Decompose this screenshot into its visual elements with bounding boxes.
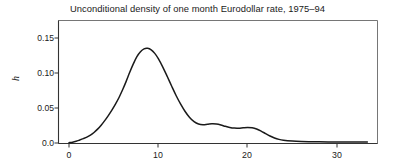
plot-area [0, 0, 395, 166]
figure-container: Unconditional density of one month Eurod… [0, 0, 395, 166]
plot-frame [59, 21, 378, 144]
y-tick-marks [55, 38, 59, 143]
density-curve [69, 48, 367, 142]
x-tick-marks [69, 144, 337, 148]
